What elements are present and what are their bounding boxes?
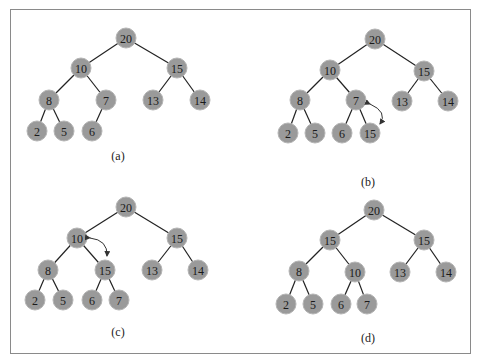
- node-value: 7: [103, 94, 109, 108]
- tree-node: 13: [143, 90, 163, 110]
- tree-node: 20: [116, 197, 136, 217]
- tree-node: 8: [38, 260, 58, 280]
- panel-c: 20101581513142567(c): [25, 197, 208, 339]
- node-value: 5: [312, 127, 318, 141]
- node-value: 14: [194, 94, 206, 108]
- tree-node: 8: [290, 90, 310, 110]
- panel-caption: (a): [111, 149, 124, 163]
- node-value: 10: [349, 266, 361, 280]
- panel-d: 20151581013142567(d): [276, 200, 456, 345]
- tree-node: 10: [345, 262, 365, 282]
- tree-node: 14: [188, 260, 208, 280]
- tree-node: 6: [331, 294, 351, 314]
- node-value: 8: [45, 264, 51, 278]
- tree-node: 13: [142, 260, 162, 280]
- node-value: 13: [394, 266, 406, 280]
- tree-node: 6: [82, 290, 102, 310]
- node-value: 6: [338, 298, 344, 312]
- tree-node: 20: [365, 29, 385, 49]
- tree-node: 10: [67, 228, 87, 248]
- swap-arrow-icon: [370, 104, 382, 124]
- node-value: 14: [440, 266, 452, 280]
- tree-node: 8: [39, 90, 59, 110]
- node-value: 15: [418, 65, 430, 79]
- tree-node: 14: [190, 90, 210, 110]
- node-value: 2: [285, 127, 291, 141]
- node-value: 8: [46, 94, 52, 108]
- tree-node: 7: [96, 90, 116, 110]
- node-value: 8: [296, 265, 302, 279]
- tree-node: 6: [332, 123, 352, 143]
- tree-node: 2: [278, 123, 298, 143]
- tree-node: 2: [25, 290, 45, 310]
- node-value: 15: [99, 264, 111, 278]
- node-value: 14: [192, 264, 204, 278]
- node-value: 10: [71, 232, 83, 246]
- node-value: 7: [364, 298, 370, 312]
- tree-node: 15: [95, 260, 115, 280]
- swap-arrow-icon: [90, 238, 107, 256]
- tree-node: 15: [167, 228, 187, 248]
- tree-node: 7: [109, 290, 129, 310]
- panel-caption: (d): [361, 331, 375, 345]
- tree-node: 13: [390, 262, 410, 282]
- tree-node: 15: [414, 230, 434, 250]
- node-value: 15: [324, 234, 336, 248]
- tree-node: 20: [116, 28, 136, 48]
- tree-node: 2: [27, 121, 47, 141]
- tree-node: 15: [360, 123, 380, 143]
- tree-node: 5: [54, 121, 74, 141]
- node-value: 5: [310, 298, 316, 312]
- tree-node: 7: [357, 294, 377, 314]
- tree-node: 13: [392, 91, 412, 111]
- node-value: 20: [368, 204, 380, 218]
- panel-b: 20101587131425615(b): [278, 29, 458, 189]
- panel-caption: (b): [361, 175, 375, 189]
- panel-a: 201015871314256(a): [27, 28, 210, 163]
- node-value: 2: [34, 125, 40, 139]
- node-value: 13: [147, 94, 159, 108]
- tree-node: 15: [167, 58, 187, 78]
- tree-node: 20: [364, 200, 384, 220]
- tree-node: 2: [276, 294, 296, 314]
- tree-node: 10: [71, 58, 91, 78]
- tree-node: 6: [82, 121, 102, 141]
- tree-node: 15: [414, 61, 434, 81]
- tree-node: 14: [438, 91, 458, 111]
- node-value: 7: [116, 294, 122, 308]
- node-value: 5: [60, 294, 66, 308]
- node-value: 20: [120, 201, 132, 215]
- node-value: 15: [418, 234, 430, 248]
- node-value: 13: [146, 264, 158, 278]
- node-value: 20: [120, 32, 132, 46]
- node-value: 20: [369, 33, 381, 47]
- node-value: 7: [353, 94, 359, 108]
- tree-node: 15: [320, 230, 340, 250]
- node-value: 10: [75, 62, 87, 76]
- tree-node: 7: [346, 90, 366, 110]
- tree-node: 5: [305, 123, 325, 143]
- node-value: 15: [364, 127, 376, 141]
- panel-caption: (c): [111, 325, 124, 339]
- node-value: 6: [89, 125, 95, 139]
- node-value: 13: [396, 95, 408, 109]
- tree-node: 8: [289, 261, 309, 281]
- tree-node: 10: [320, 60, 340, 80]
- node-value: 6: [339, 127, 345, 141]
- tree-node: 5: [53, 290, 73, 310]
- node-value: 15: [171, 62, 183, 76]
- node-value: 6: [89, 294, 95, 308]
- tree-node: 14: [436, 262, 456, 282]
- node-value: 14: [442, 95, 454, 109]
- node-value: 2: [32, 294, 38, 308]
- node-value: 5: [61, 125, 67, 139]
- node-value: 15: [171, 232, 183, 246]
- node-value: 2: [283, 298, 289, 312]
- tree-node: 5: [303, 294, 323, 314]
- heap-diagram: 201015871314256(a)20101587131425615(b)20…: [0, 0, 483, 362]
- node-value: 10: [324, 64, 336, 78]
- node-value: 8: [297, 94, 303, 108]
